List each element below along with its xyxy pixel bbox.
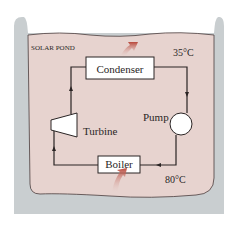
turbine-label: Turbine [83, 125, 118, 137]
top-temperature: 35°C [173, 47, 194, 58]
pump-label: Pump [143, 111, 169, 123]
condenser-label: Condenser [96, 63, 143, 75]
pond-label: SOLAR POND [31, 44, 75, 52]
solar-pond-diagram: Condenser Turbine Pump Boiler SOLAR POND… [0, 0, 236, 227]
bottom-temperature: 80°C [165, 174, 186, 185]
boiler-label: Boiler [105, 158, 133, 170]
condenser-box: Condenser [86, 57, 154, 79]
